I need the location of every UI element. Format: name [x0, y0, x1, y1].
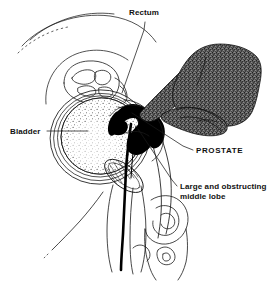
label-middle-lobe: Large and obstructing middle lobe [180, 182, 276, 202]
sacrum-vertebrae [64, 61, 127, 104]
label-prostate: PROSTATE [196, 146, 243, 156]
label-bladder: Bladder [10, 127, 41, 137]
rectum-leader [122, 22, 145, 93]
label-middle-lobe-line2: middle lobe [180, 192, 226, 201]
anatomy-diagram [0, 0, 279, 283]
prostate-examination-figure: Rectum Bladder PROSTATE Large and obstru… [0, 0, 279, 283]
label-middle-lobe-line1: Large and obstructing [180, 182, 267, 191]
label-rectum: Rectum [129, 8, 159, 18]
abdominal-wall-arcs [18, 13, 156, 104]
